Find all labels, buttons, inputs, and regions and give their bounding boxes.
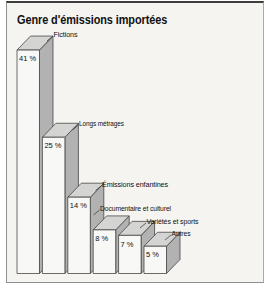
bar-value-label: 8 %: [95, 234, 108, 243]
bar-category-label: Variétés et sports: [147, 218, 200, 226]
bar-category-label: Autres: [172, 230, 192, 237]
bar-front-face: [42, 137, 65, 273]
bar-category-label: Documentaire et culturel: [100, 205, 172, 212]
bar-chart: 41 %Fictions25 %Longs métrages14 %Émissi…: [0, 0, 269, 294]
chart-page: Genre d'émissions importées 41 %Fictions…: [0, 0, 269, 294]
bar-category-label: Longs métrages: [79, 120, 125, 128]
bar-value-label: 25 %: [44, 141, 61, 150]
bar-value-label: 7 %: [121, 240, 134, 249]
bar-category-label: Émissions enfantines: [102, 180, 169, 188]
bar-value-label: 5 %: [146, 250, 159, 259]
bar-value-label: 14 %: [70, 201, 87, 210]
bar-category-label: Fictions: [54, 31, 79, 38]
bar-value-label: 41 %: [19, 54, 36, 63]
bar-front-face: [17, 50, 40, 273]
